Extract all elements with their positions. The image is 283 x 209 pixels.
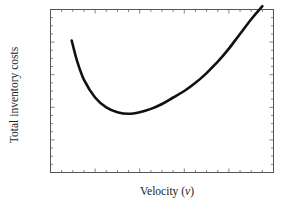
cost-curve — [72, 6, 263, 114]
y-axis-label: Total inventory costs — [4, 40, 24, 150]
x-axis-label: Velocity (v) — [140, 185, 194, 197]
chart-canvas — [0, 0, 283, 209]
